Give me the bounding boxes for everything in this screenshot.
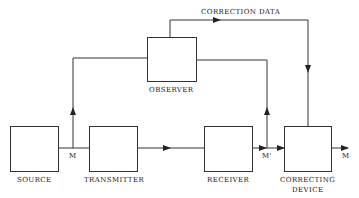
correcting-device-block xyxy=(284,126,332,172)
signal-m-prime: M' xyxy=(262,152,272,160)
correction-data-label: CORRECTION DATA xyxy=(201,8,280,16)
transmitter-label: TRANSMITTER xyxy=(84,176,144,184)
correcting-device-label-2: DEVICE xyxy=(292,186,323,194)
correcting-device-label-1: CORRECTING xyxy=(280,176,335,184)
signal-m-output: M xyxy=(342,152,350,160)
observer-label: OBSERVER xyxy=(149,86,193,94)
source-block xyxy=(10,126,59,172)
transmitter-block xyxy=(89,126,138,172)
observer-block xyxy=(147,37,197,82)
receiver-block xyxy=(204,126,253,172)
receiver-label: RECEIVER xyxy=(207,176,249,184)
source-label: SOURCE xyxy=(17,176,52,184)
signal-m-source: M xyxy=(69,152,77,160)
